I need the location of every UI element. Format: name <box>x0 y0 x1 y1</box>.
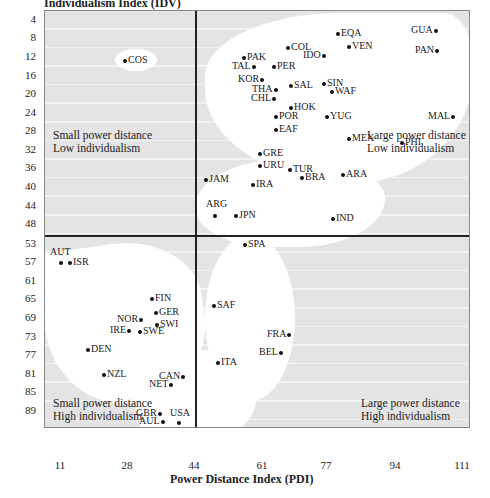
point-fra: FRA <box>267 329 292 339</box>
point-marker <box>286 46 290 50</box>
point-label: NZL <box>107 368 126 379</box>
point-gre: GRE <box>257 148 283 158</box>
x-tick: 94 <box>390 459 401 471</box>
point-ind: IND <box>330 213 354 223</box>
y-tick: 53 <box>0 237 36 249</box>
point-marker <box>154 311 158 315</box>
point-jam: JAM <box>203 174 229 184</box>
point-marker <box>325 115 329 119</box>
point-label: JAM <box>209 173 229 184</box>
plot-area: Small power distance Low individualism L… <box>44 10 470 428</box>
point-marker <box>434 29 438 33</box>
point-marker <box>127 329 131 333</box>
point-usa-dot <box>176 417 182 427</box>
y-tick: 69 <box>0 311 36 323</box>
point-arg: ARG <box>206 199 227 209</box>
point-cos: COS <box>122 55 147 65</box>
point-per: PER <box>271 61 295 71</box>
point-label: BEL <box>259 346 278 357</box>
point-marker <box>216 361 220 365</box>
point-label: PER <box>277 60 295 71</box>
point-marker <box>347 137 351 141</box>
quadrant-label-line: Large power distance <box>361 397 460 410</box>
point-mex: MEX <box>346 133 374 143</box>
x-tick: 44 <box>189 459 200 471</box>
point-tal: TAL <box>232 61 257 71</box>
point-yug: YUG <box>324 111 352 121</box>
y-tick: 40 <box>0 180 36 192</box>
point-label: SPA <box>248 238 265 249</box>
y-tick: 48 <box>0 217 36 229</box>
point-marker <box>169 383 173 387</box>
point-label: MEX <box>352 132 374 143</box>
point-marker <box>181 375 185 379</box>
point-label: BRA <box>305 171 326 182</box>
x-tick: 61 <box>257 459 268 471</box>
point-label: FIN <box>155 292 171 303</box>
point-ita: ITA <box>215 357 237 367</box>
point-label: EQA <box>341 27 362 38</box>
y-tick: 4 <box>0 13 36 25</box>
point-aut: AUT <box>50 247 71 257</box>
point-marker <box>213 214 217 218</box>
y-tick: 36 <box>0 161 36 173</box>
point-sal: SAL <box>288 80 313 90</box>
point-marker <box>347 45 351 49</box>
y-tick: 61 <box>0 274 36 286</box>
point-marker <box>260 78 264 82</box>
point-marker <box>86 348 90 352</box>
point-ven: VEN <box>346 41 373 51</box>
point-ido: IDO <box>303 50 327 60</box>
y-tick: 24 <box>0 106 36 118</box>
point-label: PHI <box>405 136 421 147</box>
quadrant-label-line: Low individualism <box>53 142 152 155</box>
y-tick: 85 <box>0 385 36 397</box>
point-phi: PHI <box>399 137 421 147</box>
point-label: PAN <box>415 44 434 55</box>
point-marker <box>274 115 278 119</box>
point-jpn: JPN <box>233 210 256 220</box>
point-eqa: EQA <box>335 28 362 38</box>
point-marker <box>330 90 334 94</box>
point-marker <box>336 32 340 36</box>
point-label: IRA <box>256 178 273 189</box>
point-marker <box>139 318 143 322</box>
point-marker <box>322 54 326 58</box>
point-label: ISR <box>73 256 89 267</box>
point-marker <box>341 173 345 177</box>
point-marker <box>274 128 278 132</box>
point-label: NOR <box>117 313 138 324</box>
point-label: NET <box>149 378 168 389</box>
point-pan: PAN <box>415 45 440 55</box>
x-tick: 11 <box>55 459 66 471</box>
quadrant-label-bottom-right: Large power distance High individualism <box>361 397 460 423</box>
point-ire: IRE <box>110 325 132 335</box>
quadrant-label-line: High individualism <box>361 410 460 423</box>
point-marker <box>288 168 292 172</box>
point-marker <box>252 65 256 69</box>
point-eaf: EAF <box>273 124 298 134</box>
point-gua: GUA <box>411 25 439 35</box>
point-bel: BEL <box>259 347 284 357</box>
point-net: NET <box>149 379 174 389</box>
point-spa: SPA <box>242 239 265 249</box>
point-label: VEN <box>352 40 373 51</box>
point-marker <box>150 297 154 301</box>
point-marker <box>274 88 278 92</box>
point-waf: WAF <box>329 86 356 96</box>
point-label: IRE <box>110 324 126 335</box>
y-tick: 8 <box>0 31 36 43</box>
point-marker <box>331 217 335 221</box>
point-marker <box>138 330 142 334</box>
point-ira: IRA <box>250 179 273 189</box>
point-marker <box>272 65 276 69</box>
point-marker <box>258 164 262 168</box>
y-tick: 28 <box>0 124 36 136</box>
point-marker <box>400 141 404 145</box>
y-tick: 65 <box>0 292 36 304</box>
y-tick: 73 <box>0 330 36 342</box>
point-saf: SAF <box>211 300 235 310</box>
y-tick: 32 <box>0 143 36 155</box>
point-label: ARA <box>346 168 367 179</box>
point-marker <box>251 183 255 187</box>
